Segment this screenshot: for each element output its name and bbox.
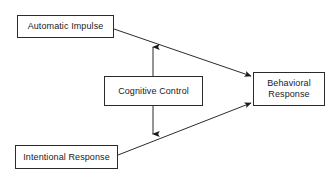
node-automatic-impulse[interactable]: Automatic Impulse: [17, 15, 114, 38]
node-cognitive-control[interactable]: Cognitive Control: [104, 76, 203, 106]
edge-intentional-to-behavioral: [118, 103, 251, 155]
node-behavioral-response-label: Behavioral Response: [267, 78, 311, 100]
node-cognitive-control-label: Cognitive Control: [118, 86, 189, 97]
node-automatic-impulse-label: Automatic Impulse: [28, 21, 104, 32]
node-intentional-response[interactable]: Intentional Response: [15, 145, 118, 169]
edge-automatic-to-behavioral: [114, 29, 251, 76]
diagram-canvas: Automatic Impulse Intentional Response C…: [0, 0, 333, 178]
node-intentional-response-label: Intentional Response: [23, 152, 110, 163]
node-behavioral-response[interactable]: Behavioral Response: [253, 72, 325, 106]
